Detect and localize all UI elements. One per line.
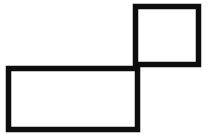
lower-left-rectangle	[9, 69, 138, 130]
figure-canvas: Two overlapping rectangles forming an L-…	[0, 0, 210, 138]
upper-right-square	[136, 7, 199, 65]
figure-svg: Two overlapping rectangles forming an L-…	[0, 0, 210, 138]
